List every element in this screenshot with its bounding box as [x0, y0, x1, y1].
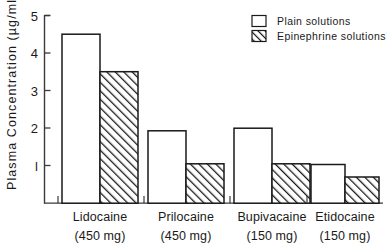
bar-epinephrine-prilocaine: [186, 164, 224, 203]
x-category-sublabel-etidocaine: (150 mg): [320, 229, 371, 243]
y-tick-label-5: 5: [31, 9, 38, 24]
legend: Plain solutions Epinephrine solutions: [252, 15, 386, 42]
y-tick-label-3: 3: [31, 84, 38, 99]
y-tick-label-2: 2: [31, 121, 38, 136]
legend-label-plain: Plain solutions: [277, 15, 351, 27]
y-tick-label-4: 4: [31, 46, 38, 61]
bar-chart-figure: 5 4 3 2 l Plasma Concentration (µg/ml) L…: [0, 0, 387, 252]
y-axis-title: Plasma Concentration (µg/ml): [5, 0, 19, 190]
bar-plain-bupivacaine: [234, 128, 272, 203]
bar-epinephrine-bupivacaine: [272, 164, 310, 203]
hatched-swatch: [252, 31, 266, 42]
x-category-sublabel-bupivacaine: (150 mg): [247, 229, 298, 243]
bar-epinephrine-etidocaine: [345, 177, 379, 203]
legend-label-epinephrine: Epinephrine solutions: [277, 30, 386, 42]
chart-canvas: 5 4 3 2 l Plasma Concentration (µg/ml) L…: [0, 0, 387, 252]
y-tick-label-1: l: [35, 159, 38, 174]
plain-swatch: [252, 16, 266, 27]
x-category-sublabel-lidocaine: (450 mg): [75, 229, 126, 243]
x-category-label-etidocaine: Etidocaine: [315, 210, 374, 224]
x-category-label-lidocaine: Lidocaine: [73, 210, 127, 224]
bar-epinephrine-lidocaine: [100, 72, 138, 204]
bar-plain-prilocaine: [148, 131, 186, 203]
bar-plain-lidocaine: [62, 34, 100, 203]
bar-plain-etidocaine: [311, 165, 345, 204]
y-axis-ticks: [45, 16, 51, 166]
x-category-label-prilocaine: Prilocaine: [158, 210, 214, 224]
x-category-label-bupivacaine: Bupivacaine: [237, 210, 306, 224]
x-category-sublabel-prilocaine: (450 mg): [161, 229, 212, 243]
